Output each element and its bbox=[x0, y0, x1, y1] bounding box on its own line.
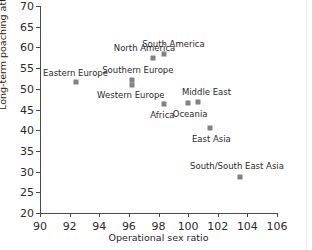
x-tick-label: 104 bbox=[237, 221, 258, 232]
x-tick-label: 98 bbox=[152, 221, 166, 232]
x-tick-mark bbox=[159, 213, 160, 217]
y-tick-label: 55 bbox=[20, 63, 34, 74]
figure-right-border bbox=[312, 0, 313, 250]
plot-area: 2025303540455055606570 90929496981001021… bbox=[40, 6, 277, 213]
y-tick-mark bbox=[36, 130, 40, 131]
y-tick-mark bbox=[36, 68, 40, 69]
x-tick-mark bbox=[247, 213, 248, 217]
y-tick-label: 20 bbox=[20, 208, 34, 219]
data-point-label: Africa bbox=[150, 111, 174, 120]
y-tick-mark bbox=[36, 47, 40, 48]
x-tick-label: 106 bbox=[267, 221, 288, 232]
x-axis-label: Operational sex ratio bbox=[40, 233, 277, 243]
y-tick-mark bbox=[36, 6, 40, 7]
data-point bbox=[208, 125, 213, 130]
data-point bbox=[237, 175, 242, 180]
data-point-label: Middle East bbox=[182, 87, 231, 96]
y-tick-mark bbox=[36, 192, 40, 193]
data-point-label: South America bbox=[142, 40, 204, 49]
y-tick-mark bbox=[36, 27, 40, 28]
y-tick-label: 35 bbox=[20, 145, 34, 156]
data-point bbox=[162, 52, 167, 57]
x-tick-mark bbox=[40, 213, 41, 217]
x-tick-label: 92 bbox=[63, 221, 77, 232]
data-point-label: South/South East Asia bbox=[190, 162, 284, 171]
y-tick-label: 25 bbox=[20, 187, 34, 198]
data-point-label: Eastern Europe bbox=[43, 69, 108, 78]
y-tick-label: 50 bbox=[20, 83, 34, 94]
x-tick-mark bbox=[129, 213, 130, 217]
y-tick-mark bbox=[36, 110, 40, 111]
y-tick-mark bbox=[36, 151, 40, 152]
data-point-label: Oceania bbox=[173, 110, 208, 119]
x-tick-label: 94 bbox=[92, 221, 106, 232]
scatter-chart-figure: Long-term poaching attempted (%) Operati… bbox=[0, 0, 313, 250]
data-point bbox=[186, 101, 191, 106]
data-point bbox=[196, 99, 201, 104]
y-tick-mark bbox=[36, 172, 40, 173]
data-point-label: Western Europe bbox=[97, 90, 164, 99]
x-tick-mark bbox=[188, 213, 189, 217]
x-tick-mark bbox=[70, 213, 71, 217]
y-tick-label: 40 bbox=[20, 125, 34, 136]
x-tick-label: 90 bbox=[33, 221, 47, 232]
data-point bbox=[162, 102, 167, 107]
data-point bbox=[129, 82, 134, 87]
y-tick-mark bbox=[36, 89, 40, 90]
data-point bbox=[73, 80, 78, 85]
x-tick-mark bbox=[218, 213, 219, 217]
x-tick-mark bbox=[277, 213, 278, 217]
y-tick-label: 45 bbox=[20, 104, 34, 115]
data-point bbox=[150, 56, 155, 61]
y-axis-label: Long-term poaching attempted (%) bbox=[0, 0, 8, 110]
y-tick-label: 70 bbox=[20, 1, 34, 12]
y-tick-label: 30 bbox=[20, 166, 34, 177]
y-tick-label: 60 bbox=[20, 42, 34, 53]
data-point-label: East Asia bbox=[192, 134, 231, 143]
data-point-label: Southern Europe bbox=[102, 66, 173, 75]
y-tick-label: 65 bbox=[20, 21, 34, 32]
x-tick-label: 96 bbox=[122, 221, 136, 232]
x-tick-label: 100 bbox=[178, 221, 199, 232]
figure-right-inner-border bbox=[306, 0, 307, 250]
x-tick-label: 102 bbox=[207, 221, 228, 232]
y-axis-line bbox=[40, 6, 41, 213]
x-tick-mark bbox=[99, 213, 100, 217]
